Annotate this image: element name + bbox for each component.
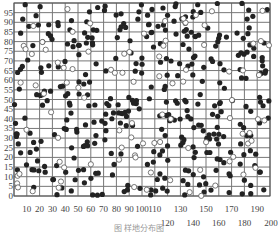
x-tick-label: 50	[74, 204, 84, 214]
y-tick-label: 40	[4, 114, 14, 124]
x-tick-label: 80	[112, 204, 122, 214]
y-tick-label: 10	[4, 172, 14, 182]
y-tick-label: 20	[4, 152, 14, 162]
y-tick-label: 95	[4, 8, 14, 18]
x-tick-label: 110	[148, 204, 162, 214]
x-tick-label: 170	[225, 204, 239, 214]
x-tick-label: 130	[174, 204, 188, 214]
scatter-chart: 0510152025303540455055606570758085909510…	[0, 0, 278, 232]
x-tick-label: 150	[199, 204, 213, 214]
y-tick-label: 25	[4, 143, 14, 153]
y-tick-label: 50	[4, 95, 14, 105]
x-tick-label: 70	[99, 204, 109, 214]
y-tick-label: 15	[4, 162, 14, 172]
x-tick-label: 60	[86, 204, 96, 214]
y-tick-label: 5	[9, 181, 14, 191]
x-tick-label: 190	[250, 204, 264, 214]
x-tick-label: 10	[22, 204, 32, 214]
x-tick-label: 30	[48, 204, 58, 214]
x-tick-label: 40	[61, 204, 71, 214]
y-tick-label: 75	[4, 46, 14, 56]
y-tick-label: 0	[9, 191, 14, 201]
x-tick-label: 20	[35, 204, 45, 214]
y-tick-label: 65	[4, 66, 14, 76]
y-tick-label: 45	[4, 104, 14, 114]
x-tick-label: 100	[135, 204, 149, 214]
y-tick-label: 60	[4, 75, 14, 85]
y-tick-label: 35	[4, 123, 14, 133]
y-tick-label: 90	[4, 17, 14, 27]
y-tick-label: 80	[4, 37, 14, 47]
figure-caption: 图 样地分布图	[0, 222, 278, 232]
y-tick-label: 70	[4, 56, 14, 66]
y-tick-label: 55	[4, 85, 14, 95]
y-tick-label: 30	[4, 133, 14, 143]
x-tick-label: 90	[125, 204, 135, 214]
y-tick-label: 85	[4, 27, 14, 37]
